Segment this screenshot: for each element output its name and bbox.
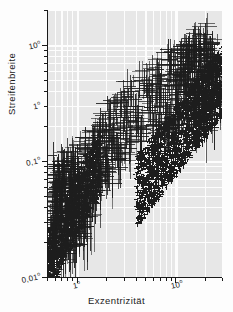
error-bar [125,131,126,162]
error-bar [195,91,196,94]
y-axis-minor-tick [44,63,47,64]
error-bar [197,85,203,86]
error-bar [212,71,213,74]
error-bar [144,202,145,206]
error-bar [175,159,176,164]
error-bar [137,193,138,196]
error-bar [92,160,93,163]
error-bar [73,151,74,175]
error-bar [49,258,52,259]
error-bar [217,98,218,104]
error-bar [198,135,204,136]
y-axis-minor-tick [44,172,47,173]
error-bar [133,110,134,124]
error-bar [163,143,164,145]
error-bar [215,82,216,84]
error-bar [196,117,197,122]
error-bar [50,241,52,242]
error-bar [191,146,192,148]
error-bar [67,223,68,227]
error-bar [156,164,157,168]
error-bar [91,150,92,152]
error-bar [80,224,81,228]
error-bar [86,196,87,200]
error-bar [157,165,159,166]
error-bar [154,197,155,203]
error-bar [52,222,53,225]
error-bar [63,218,64,222]
x-axis-minor-tick [160,278,161,281]
error-bar [210,109,211,112]
error-bar [198,133,199,137]
error-bar [154,186,156,187]
error-bar [200,103,201,106]
error-bar [92,197,93,199]
error-bar [81,165,82,168]
error-bar [217,52,218,54]
error-bar [100,187,101,192]
error-bar [148,187,149,190]
error-bar [202,70,203,73]
error-bar [51,244,52,246]
error-bar [210,128,214,129]
error-bar [208,81,210,82]
error-bar [95,170,100,171]
error-bar [71,224,72,226]
error-bar [183,115,184,121]
error-bar [211,65,212,69]
error-bar [193,108,194,110]
error-bar [212,62,213,65]
error-bar [184,107,185,111]
error-bar [174,150,175,154]
y-axis-tick-label: 0,01o [7,272,42,288]
error-bar [95,144,96,148]
y-axis-title: Streifenbreite [6,53,17,115]
error-bar [143,118,144,141]
error-bar [61,262,62,266]
error-bar [199,112,200,114]
error-bar [81,185,82,189]
error-bar [220,53,222,54]
x-axis-line [47,277,222,278]
y-axis-minor-tick [44,187,47,188]
error-bar [184,93,187,94]
error-bar [220,117,221,122]
error-bar [159,190,160,192]
error-bar [63,240,64,245]
error-bar [73,224,74,227]
error-bar [79,201,80,204]
error-bar [188,154,189,157]
error-bar [99,171,100,175]
error-bar [139,61,140,98]
error-bar [138,222,139,225]
error-bar [133,174,135,175]
y-axis-minor-tick [44,222,47,223]
error-bar [149,168,150,170]
error-bar [202,98,203,103]
error-bar [152,55,153,74]
error-bar [98,157,99,159]
error-bar [141,117,142,137]
x-axis-minor-tick [67,278,68,281]
error-bar [190,154,191,156]
error-bar [162,168,163,171]
error-bar [121,99,142,100]
error-bar [181,155,182,160]
error-bar [54,259,55,262]
error-bar [140,195,141,197]
error-bar [78,205,79,207]
error-bar [199,84,200,90]
error-bar [217,102,222,103]
error-bar [75,179,76,182]
error-bar [57,267,58,269]
error-bar [97,181,98,185]
error-bar [160,162,161,166]
y-axis-minor-tick [44,126,47,127]
error-bar [86,154,87,157]
x-axis-minor-tick [153,278,154,281]
error-bar [151,194,152,198]
y-axis-minor-tick [44,50,47,51]
y-axis-minor-tick [44,196,47,197]
error-bar [211,125,215,126]
error-bar [56,216,57,220]
